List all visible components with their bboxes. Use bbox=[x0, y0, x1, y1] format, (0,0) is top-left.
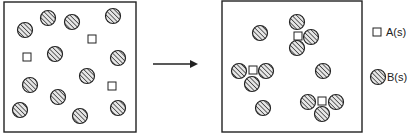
particle-b-icon bbox=[316, 64, 331, 79]
particle-b-icon bbox=[80, 69, 95, 84]
particle-b-icon bbox=[18, 23, 33, 38]
ab3-cluster bbox=[290, 15, 319, 56]
particle-b-icon bbox=[290, 41, 305, 56]
particle-b-icon bbox=[51, 90, 66, 105]
particle-b-icon bbox=[259, 64, 274, 79]
particle-b-icon bbox=[315, 107, 330, 122]
particle-a-icon bbox=[88, 35, 96, 43]
particle-b-icon bbox=[290, 15, 305, 30]
before-reaction-box bbox=[4, 2, 136, 132]
particle-b-icon bbox=[13, 103, 28, 118]
particle-b-icon bbox=[111, 51, 126, 66]
legend-circle-icon bbox=[371, 70, 386, 85]
particle-b-icon bbox=[301, 95, 316, 110]
particle-b-icon bbox=[111, 101, 126, 116]
particle-b-icon bbox=[48, 47, 63, 62]
legend-label-a: A(s) bbox=[386, 26, 406, 38]
diagram-canvas bbox=[0, 0, 420, 136]
particle-b-icon bbox=[41, 11, 56, 26]
legend-label-b: B(s) bbox=[387, 71, 407, 83]
legend-square-icon bbox=[373, 28, 381, 36]
particle-b-icon bbox=[253, 26, 268, 41]
particle-b-icon bbox=[65, 15, 80, 30]
particle-b-icon bbox=[245, 77, 260, 92]
after-reaction-box bbox=[222, 1, 362, 132]
particle-b-icon bbox=[23, 78, 38, 93]
particle-b-icon bbox=[232, 64, 247, 79]
particle-a-icon bbox=[318, 97, 326, 105]
ab3-cluster bbox=[232, 64, 274, 92]
particle-b-icon bbox=[304, 30, 319, 45]
legend bbox=[371, 28, 386, 85]
particle-a-icon bbox=[249, 66, 257, 74]
particle-a-icon bbox=[23, 53, 31, 61]
particle-b-icon bbox=[106, 9, 121, 24]
particle-b-icon bbox=[73, 109, 88, 124]
ab3-cluster bbox=[301, 95, 344, 122]
reaction-diagram: A(s) B(s) bbox=[0, 0, 420, 136]
particle-b-icon bbox=[329, 95, 344, 110]
particle-a-icon bbox=[294, 32, 302, 40]
particle-b-icon bbox=[256, 101, 271, 116]
particle-a-icon bbox=[108, 82, 116, 90]
